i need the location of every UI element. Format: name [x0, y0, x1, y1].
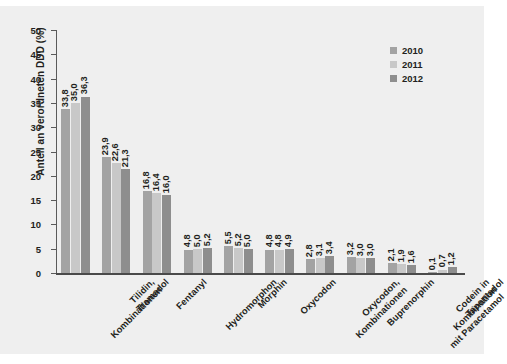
bar-value-label: 22,6 — [111, 143, 120, 161]
y-tick-label: 30 — [30, 123, 41, 133]
bar: 16,4 — [152, 193, 161, 273]
chart-legend: 201020112012 — [390, 46, 423, 88]
legend-label: 2011 — [402, 60, 423, 70]
legend-label: 2012 — [402, 74, 423, 84]
y-tick-label: 40 — [30, 75, 41, 85]
bar: 22,6 — [112, 163, 121, 273]
bar-value-label: 3,4 — [325, 242, 334, 255]
y-tick-label: 20 — [30, 172, 41, 182]
bar-group: 4,84,84,9 — [265, 30, 294, 273]
bar-value-label: 16,4 — [152, 173, 161, 191]
bar-value-label: 3,0 — [356, 244, 365, 257]
bar-value-label: 5,0 — [193, 234, 202, 247]
bar: 21,3 — [121, 169, 130, 273]
bar-value-label: 21,3 — [121, 150, 130, 168]
bar-value-label: 2,1 — [387, 248, 396, 261]
bar-value-label: 1,2 — [447, 252, 456, 265]
legend-swatch-icon — [390, 47, 397, 54]
bar-value-label: 1,9 — [397, 249, 406, 262]
bar: 5,0 — [193, 249, 202, 273]
bar: 4,9 — [285, 249, 294, 273]
bar-group: 16,816,416,0 — [143, 30, 172, 273]
bar: 3,2 — [347, 257, 356, 273]
legend-item: 2011 — [390, 60, 423, 70]
y-tick-label: 15 — [30, 196, 41, 206]
bar-value-label: 16,0 — [162, 175, 171, 193]
bar: 1,2 — [448, 267, 457, 273]
bar: 35,0 — [71, 103, 80, 273]
bar: 4,8 — [275, 250, 284, 273]
bar: 0,1 — [428, 272, 437, 273]
x-category-label: Hydromorphon — [224, 277, 279, 332]
y-tick-label: 0 — [36, 269, 41, 279]
bar-value-label: 5,0 — [243, 234, 252, 247]
bar: 3,4 — [325, 256, 334, 273]
bar: 1,9 — [397, 264, 406, 273]
y-tick-label: 50 — [30, 26, 41, 36]
bar-value-label: 1,6 — [406, 250, 415, 263]
y-tick-label: 5 — [36, 245, 41, 255]
bar: 2,8 — [306, 259, 315, 273]
bar-value-label: 3,1 — [315, 243, 324, 256]
bar-group: 23,922,621,3 — [102, 30, 131, 273]
bar: 3,1 — [316, 258, 325, 273]
bar-value-label: 4,8 — [183, 235, 192, 248]
bar-group: 5,55,25,0 — [224, 30, 253, 273]
x-category-label: Oxycodon — [299, 277, 339, 317]
bar-value-label: 5,2 — [202, 233, 211, 246]
y-tick-label: 45 — [30, 50, 41, 60]
bar: 1,6 — [407, 265, 416, 273]
bar: 5,0 — [244, 249, 253, 273]
y-tick-label: 35 — [30, 99, 41, 109]
bar-value-label: 3,0 — [366, 244, 375, 257]
bar-group: 2,83,13,4 — [306, 30, 335, 273]
bar-group: 0,10,71,2 — [428, 30, 457, 273]
bar-group: 4,85,05,2 — [184, 30, 213, 273]
bar: 2,1 — [388, 263, 397, 273]
bar: 5,2 — [234, 248, 243, 273]
legend-label: 2010 — [402, 46, 423, 56]
bar-value-label: 4,9 — [284, 234, 293, 247]
x-axis-line — [56, 273, 465, 275]
y-tick-label: 10 — [30, 220, 41, 230]
chart-figure: Anteil an verordneten DDD (%) 5045403530… — [0, 6, 484, 354]
bar: 23,9 — [102, 157, 111, 273]
legend-swatch-icon — [390, 61, 397, 68]
bar: 4,8 — [265, 250, 274, 273]
bar: 3,0 — [366, 258, 375, 273]
bar: 4,8 — [184, 250, 193, 273]
bar: 16,8 — [143, 191, 152, 273]
bar-value-label: 0,1 — [428, 257, 437, 270]
bar-group: 33,835,036,3 — [61, 30, 90, 273]
legend-swatch-icon — [390, 75, 397, 82]
x-category-label: Fentanyl — [174, 277, 209, 312]
bar-value-label: 5,5 — [224, 232, 233, 245]
bar-value-label: 3,2 — [346, 243, 355, 256]
bar: 5,5 — [224, 246, 233, 273]
bar-value-label: 36,3 — [80, 77, 89, 95]
bar: 0,7 — [438, 270, 447, 273]
bar-value-label: 16,8 — [142, 171, 151, 189]
y-tick-label: 25 — [30, 148, 41, 158]
bar: 5,2 — [203, 248, 212, 273]
legend-item: 2012 — [390, 74, 423, 84]
bar: 33,8 — [61, 109, 70, 273]
bar-group: 3,23,03,0 — [347, 30, 376, 273]
legend-item: 2010 — [390, 46, 423, 56]
bar: 36,3 — [81, 97, 90, 273]
bar: 16,0 — [162, 195, 171, 273]
bar: 3,0 — [356, 258, 365, 273]
